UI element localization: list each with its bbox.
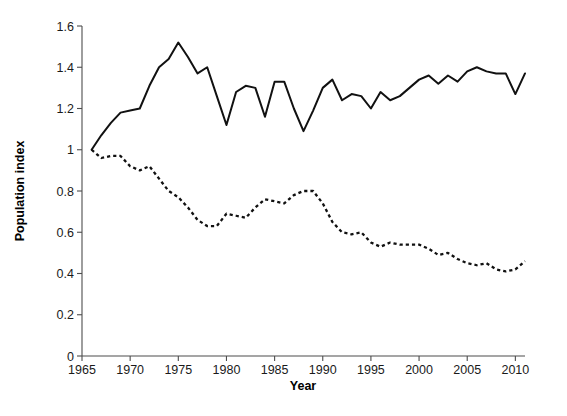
x-axis-tick-marks <box>82 356 515 361</box>
chart-figure: 00.20.40.60.811.21.41.6 1965197019751980… <box>0 0 567 416</box>
y-tick-label: 1 <box>67 143 74 157</box>
y-tick-label: 1.2 <box>57 102 74 116</box>
x-tick-label: 2000 <box>405 363 433 377</box>
y-tick-label: 0.8 <box>57 185 74 199</box>
series-line-solid <box>92 43 525 150</box>
y-tick-label: 0.6 <box>57 226 74 240</box>
x-axis-title: Year <box>290 379 317 393</box>
x-tick-label: 2010 <box>501 363 529 377</box>
y-tick-label: 0.4 <box>57 267 74 281</box>
x-axis-tick-labels: 1965197019751980198519901995200020052010 <box>68 363 529 377</box>
x-tick-label: 1995 <box>357 363 385 377</box>
y-axis-tick-marks <box>77 26 82 356</box>
x-tick-label: 1975 <box>164 363 192 377</box>
x-tick-label: 1980 <box>213 363 241 377</box>
x-tick-label: 1965 <box>68 363 96 377</box>
x-tick-label: 1985 <box>261 363 289 377</box>
y-tick-label: 1.6 <box>57 20 74 34</box>
y-axis-tick-labels: 00.20.40.60.811.21.41.6 <box>57 20 74 364</box>
population-index-line-chart: 00.20.40.60.811.21.41.6 1965197019751980… <box>0 0 567 416</box>
series-line-dashed <box>92 150 525 272</box>
y-axis-title: Population index <box>13 141 27 242</box>
y-tick-label: 0 <box>67 350 74 364</box>
y-tick-label: 1.4 <box>57 61 74 75</box>
x-tick-label: 1990 <box>309 363 337 377</box>
x-tick-label: 1970 <box>116 363 144 377</box>
y-tick-label: 0.2 <box>57 308 74 322</box>
x-tick-label: 2005 <box>453 363 481 377</box>
